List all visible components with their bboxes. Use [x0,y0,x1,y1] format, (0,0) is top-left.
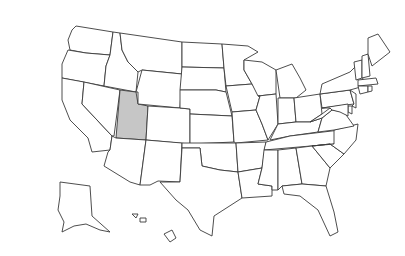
state-connecticut[interactable]: Connecticut [358,86,368,94]
state-maine[interactable]: Maine [368,34,390,66]
us-map: WashingtonOregonCaliforniaIdahoNevadaUta… [0,0,405,256]
state-delaware[interactable]: Delaware [348,106,352,114]
state-indiana[interactable]: Indiana [278,98,296,124]
state-north-dakota[interactable]: North Dakota [182,42,224,68]
state-kansas[interactable]: Kansas [190,114,234,144]
state-arkansas[interactable]: Arkansas [236,142,266,172]
state-new-mexico[interactable]: New Mexico [140,140,182,185]
state-alaska[interactable]: Alaska [58,182,110,232]
state-colorado[interactable]: Colorado [146,106,190,144]
state-wyoming[interactable]: Wyoming [136,70,182,108]
state-south-dakota[interactable]: South Dakota [180,67,226,92]
state-rhode-island[interactable]: Rhode Island [368,86,372,92]
state-florida[interactable]: Florida [282,184,338,236]
state-hawaii[interactable]: Hawaii [132,214,176,242]
state-washington[interactable]: Washington [68,26,113,55]
state-michigan[interactable]: Michigan [276,64,306,98]
